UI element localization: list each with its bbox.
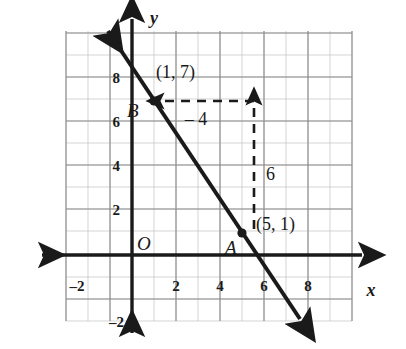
graph-figure: –2 2 4 6 8 8 6 4 2 –2 O x y (1, 7) B (5,…	[0, 0, 406, 349]
y-axis-label: y	[148, 8, 159, 28]
x-tick-label-4: 4	[216, 278, 224, 294]
y-tick-label-neg2: –2	[108, 314, 124, 330]
x-tick-label-2: 2	[172, 278, 180, 294]
point-name-label-A: A	[223, 237, 237, 258]
point-marker-B	[149, 96, 158, 105]
y-tick-label-4: 4	[113, 158, 121, 174]
point-coord-label-A: (5, 1)	[256, 214, 295, 235]
y-tick-label-6: 6	[113, 114, 121, 130]
point-name-label-B: B	[127, 100, 139, 121]
run-annotation-label: – 4	[184, 109, 208, 129]
rise-annotation-label: 6	[266, 164, 275, 184]
origin-label: O	[137, 233, 151, 254]
y-tick-label-8: 8	[113, 70, 121, 86]
x-axis-label: x	[366, 280, 376, 300]
x-tick-label-8: 8	[304, 278, 312, 294]
x-tick-label-6: 6	[260, 278, 268, 294]
coordinate-plane-svg: –2 2 4 6 8 8 6 4 2 –2 O x y (1, 7) B (5,…	[0, 0, 406, 349]
point-marker-A	[237, 228, 246, 237]
y-tick-label-2: 2	[113, 202, 121, 218]
point-coord-label-B: (1, 7)	[156, 62, 195, 83]
x-tick-label-neg2: –2	[69, 278, 85, 294]
